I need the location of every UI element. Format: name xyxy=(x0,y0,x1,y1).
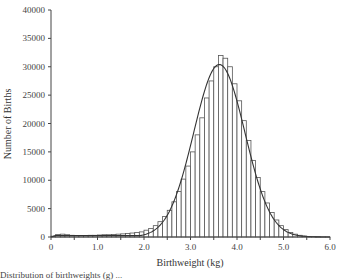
histogram-bar xyxy=(260,192,265,237)
x-axis-ticks: 01.02.03.04.05.06.0 xyxy=(49,237,336,252)
figure-caption: Distribution of birthweights (g) ... xyxy=(0,270,122,280)
histogram-bar xyxy=(204,98,209,237)
y-tick-label: 5000 xyxy=(27,204,46,214)
y-tick-label: 10000 xyxy=(23,175,46,185)
y-tick-label: 25000 xyxy=(23,90,46,100)
x-tick-label: 3.0 xyxy=(185,242,197,252)
x-tick-label: 1.0 xyxy=(92,242,104,252)
x-tick-label: 2.0 xyxy=(138,242,150,252)
y-tick-label: 40000 xyxy=(23,5,46,15)
y-tick-label: 35000 xyxy=(23,33,46,43)
histogram-bar xyxy=(214,67,219,237)
y-tick-label: 20000 xyxy=(23,119,46,129)
x-tick-label: 6.0 xyxy=(324,242,336,252)
histogram-bar xyxy=(218,55,223,237)
histogram-bar xyxy=(135,232,140,237)
histogram-bar xyxy=(181,179,186,237)
histogram-bar xyxy=(177,192,182,237)
histogram-bar xyxy=(223,58,228,237)
y-tick-label: 0 xyxy=(41,232,46,242)
y-tick-label: 30000 xyxy=(23,62,46,72)
histogram-bar xyxy=(228,67,233,237)
histogram-bar xyxy=(195,135,200,237)
y-tick-label: 15000 xyxy=(23,147,46,157)
histogram-bar xyxy=(191,152,196,237)
x-tick-label: 4.0 xyxy=(231,242,243,252)
y-axis-title: Number of Births xyxy=(2,89,13,160)
y-axis-ticks: 0500010000150002000025000300003500040000 xyxy=(23,5,52,242)
histogram-bar xyxy=(237,101,242,237)
histogram-bar xyxy=(186,166,191,237)
x-axis-title: Birthweight (kg) xyxy=(157,257,224,269)
histogram-bar xyxy=(130,233,135,237)
histogram-bar xyxy=(172,202,177,237)
histogram-bar xyxy=(232,84,237,237)
histogram-bar xyxy=(200,118,205,237)
histogram-bar xyxy=(242,121,247,237)
x-tick-label: 0 xyxy=(49,242,54,252)
x-tick-label: 5.0 xyxy=(278,242,290,252)
histogram-bar xyxy=(209,81,214,237)
